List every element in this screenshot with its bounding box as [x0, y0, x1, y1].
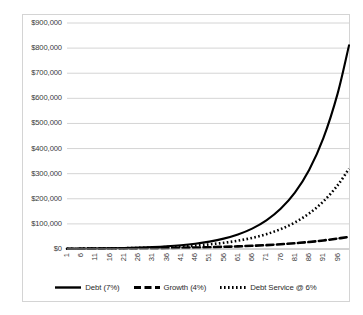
legend-entry[interactable]: Debt (7%) — [55, 283, 119, 292]
chart-container: $900,000$800,000$700,000$600,000$500,000… — [22, 14, 350, 302]
x-tick-label: 36 — [163, 253, 171, 261]
y-tick-label: $0 — [54, 245, 62, 253]
x-tick-label: 96 — [334, 253, 342, 261]
x-tick-label: 31 — [148, 253, 156, 261]
series-line-debt-service-6 — [67, 169, 349, 249]
legend-label: Debt (7%) — [85, 284, 119, 292]
series-lines — [67, 45, 349, 248]
legend-label: Debt Service @ 6% — [250, 284, 316, 292]
legend-marker-dashed-icon — [134, 283, 160, 292]
x-tick-label: 46 — [191, 253, 199, 261]
x-tick-label: 61 — [234, 253, 242, 261]
y-tick-label: $700,000 — [31, 69, 62, 77]
y-axis: $900,000$800,000$700,000$600,000$500,000… — [23, 23, 65, 249]
gridlines — [67, 23, 349, 224]
x-tick-label: 81 — [291, 253, 299, 261]
x-tick-label: 16 — [106, 253, 114, 261]
x-tick-label: 91 — [319, 253, 327, 261]
y-tick-label: $600,000 — [31, 95, 62, 103]
legend-label: Growth (4%) — [164, 284, 207, 292]
x-tick-label: 21 — [120, 253, 128, 261]
x-tick-label: 86 — [305, 253, 313, 261]
legend-marker-solid-icon — [55, 283, 81, 292]
chart-plot-svg — [67, 23, 349, 249]
plot-area — [67, 23, 349, 249]
y-tick-label: $800,000 — [31, 44, 62, 52]
x-tick-label: 6 — [77, 253, 85, 257]
x-tick-label: 1 — [63, 253, 71, 257]
chart-legend: Debt (7%)Growth (4%)Debt Service @ 6% — [23, 283, 349, 292]
y-tick-label: $200,000 — [31, 195, 62, 203]
x-axis: 16111621263136414651566166717681869196 — [67, 253, 349, 281]
y-tick-label: $500,000 — [31, 120, 62, 128]
x-tick-label: 26 — [134, 253, 142, 261]
x-tick-label: 51 — [205, 253, 213, 261]
x-tick-label: 56 — [220, 253, 228, 261]
x-tick-label: 66 — [248, 253, 256, 261]
x-tick-label: 41 — [177, 253, 185, 261]
legend-entry[interactable]: Growth (4%) — [134, 283, 207, 292]
series-line-debt-7 — [67, 45, 349, 248]
legend-marker-dotted-icon — [220, 283, 246, 292]
y-tick-label: $400,000 — [31, 145, 62, 153]
x-tick-label: 11 — [91, 253, 99, 261]
x-tick-label: 71 — [262, 253, 270, 261]
y-tick-label: $300,000 — [31, 170, 62, 178]
legend-entry[interactable]: Debt Service @ 6% — [220, 283, 316, 292]
y-tick-label: $900,000 — [31, 19, 62, 27]
x-tick-label: 76 — [277, 253, 285, 261]
y-tick-label: $100,000 — [31, 220, 62, 228]
